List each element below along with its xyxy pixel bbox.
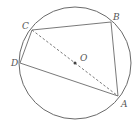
segment-bc — [32, 22, 111, 30]
center-point — [74, 62, 77, 65]
label-b: B — [112, 12, 120, 22]
label-c: C — [22, 21, 29, 31]
segment-ab — [111, 22, 118, 96]
label-a: A — [120, 99, 128, 109]
circle-diagram: A B C D O — [0, 0, 133, 121]
label-d: D — [10, 58, 18, 68]
label-o: O — [80, 53, 88, 63]
segment-da — [20, 63, 118, 96]
